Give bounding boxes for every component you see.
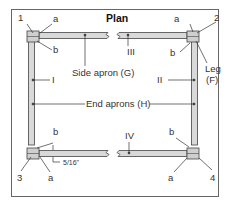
corner-label-1: 1 (18, 12, 23, 23)
label-a-top-right: a (174, 13, 180, 24)
leg-4 (187, 148, 199, 159)
apron-label-II: II (157, 74, 162, 85)
apron-label-I: I (52, 74, 55, 85)
side-apron-label: Side apron (G) (72, 67, 134, 78)
apron-label-III: III (127, 46, 135, 57)
side-apron-top (39, 33, 187, 39)
end-apron-right (192, 41, 198, 145)
corner-label-3: 3 (17, 172, 22, 183)
side-apron-bottom (39, 151, 187, 157)
dimension-label: 5/16" (63, 159, 80, 166)
label-a-top-left: a (53, 13, 59, 24)
leg-label-line1: Leg (205, 63, 221, 74)
apron-label-IV: IV (125, 130, 135, 141)
label-b-top-left: b (53, 44, 58, 55)
corner-label-2: 2 (214, 12, 219, 23)
label-b-bottom-right: b (169, 126, 174, 137)
end-aprons-label: End aprons (H) (86, 98, 150, 109)
label-b-bottom-left: b (53, 126, 58, 137)
leg-3 (27, 148, 39, 159)
end-apron-left (29, 41, 35, 145)
diagram-title: Plan (106, 12, 128, 24)
label-b-top-right: b (170, 47, 175, 58)
label-a-bottom-left: a (48, 172, 54, 183)
leg-label-line2: (F) (206, 74, 218, 85)
plan-diagram: Plan (0, 0, 236, 201)
corner-label-4: 4 (210, 172, 215, 183)
label-a-bottom-right: a (168, 172, 174, 183)
